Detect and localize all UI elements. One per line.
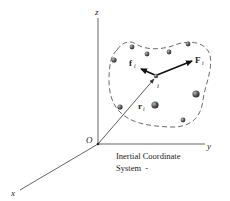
caption-line-2: System - [116, 163, 148, 173]
internal-force-label: f i [129, 58, 136, 69]
x-axis-label: x [10, 188, 15, 198]
particles [111, 42, 199, 123]
particle [145, 52, 150, 57]
external-force-label: F i [195, 55, 204, 66]
particle [130, 45, 135, 50]
external-force-subscript: i [202, 60, 204, 66]
internal-force-symbol: f [129, 58, 133, 68]
internal-force-vector-f [141, 69, 155, 75]
origin-label: O [86, 135, 93, 145]
particle-system-diagram: z y x O i F i f i r i Inertial Coordinat… [0, 0, 230, 201]
external-force-vector-F [157, 61, 192, 75]
position-vector-symbol: r [138, 101, 142, 111]
particle [186, 42, 191, 47]
position-vector-label: r i [138, 101, 145, 112]
particle [167, 50, 172, 55]
particle [111, 57, 116, 62]
particle [181, 118, 186, 123]
particle-i-label: i [157, 82, 159, 90]
y-axis-label: y [206, 141, 211, 151]
particle [192, 90, 199, 97]
particle [117, 104, 122, 109]
x-axis [20, 144, 98, 190]
z-axis-label: z [94, 7, 99, 17]
particle [151, 101, 158, 108]
caption-line-1: Inertial Coordinate [116, 151, 181, 161]
position-vector-subscript: i [143, 106, 145, 112]
particle-i [154, 74, 158, 78]
external-force-symbol: F [195, 55, 201, 65]
internal-force-subscript: i [134, 63, 136, 69]
position-vector-r [98, 79, 154, 144]
